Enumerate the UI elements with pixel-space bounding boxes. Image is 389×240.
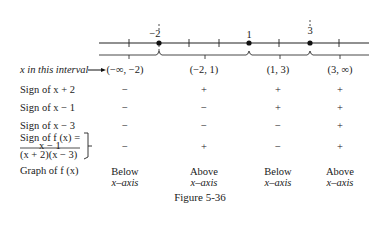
sign-cell: − xyxy=(95,84,155,95)
sign-cell: + xyxy=(174,84,234,95)
row-label-sign-x-minus-1: Sign of x − 1 xyxy=(20,102,75,113)
sign-cell-f: − xyxy=(248,141,308,152)
fraction-denominator: (x + 2)(x − 3) xyxy=(20,149,77,160)
sign-cell: − xyxy=(95,120,155,131)
graph-cell-line1: Below xyxy=(95,166,155,177)
sign-cell: − xyxy=(95,102,155,113)
point-label-3: 3 xyxy=(300,25,320,36)
figure-caption: Figure 5-36 xyxy=(150,191,250,203)
sign-cell-f: − xyxy=(95,141,155,152)
sign-cell-f: + xyxy=(174,141,234,152)
interval-4: (3, ∞) xyxy=(310,64,370,75)
interval-3: (1, 3) xyxy=(248,64,308,75)
sign-cell-f: + xyxy=(310,141,370,152)
graph-cell-line2: x–axis xyxy=(248,177,308,188)
sign-cell: + xyxy=(310,102,370,113)
sign-cell: − xyxy=(174,120,234,131)
graph-cell-line1: Above xyxy=(310,166,370,177)
sign-cell: − xyxy=(248,120,308,131)
point-label-neg2: −2 xyxy=(145,28,165,39)
sign-cell: + xyxy=(248,84,308,95)
row-label-interval: x in this interval xyxy=(20,64,89,75)
interval-2: (−2, 1) xyxy=(174,64,234,75)
sign-cell: + xyxy=(310,84,370,95)
row-label-graph: Graph of f (x) xyxy=(20,165,79,176)
graph-cell-line2: x–axis xyxy=(310,177,370,188)
sign-cell: − xyxy=(174,102,234,113)
sign-cell: + xyxy=(310,120,370,131)
graph-cell-line1: Below xyxy=(248,166,308,177)
sign-cell: + xyxy=(248,102,308,113)
row-label-sign-x-minus-3: Sign of x − 3 xyxy=(20,120,75,131)
row-label-sign-x-plus-2: Sign of x + 2 xyxy=(20,84,75,95)
graph-cell-line2: x–axis xyxy=(174,177,234,188)
interval-1: (−∞, −2) xyxy=(95,64,155,75)
graph-cell-line2: x–axis xyxy=(95,177,155,188)
graph-cell-line1: Above xyxy=(174,166,234,177)
point-label-1: 1 xyxy=(239,29,259,40)
